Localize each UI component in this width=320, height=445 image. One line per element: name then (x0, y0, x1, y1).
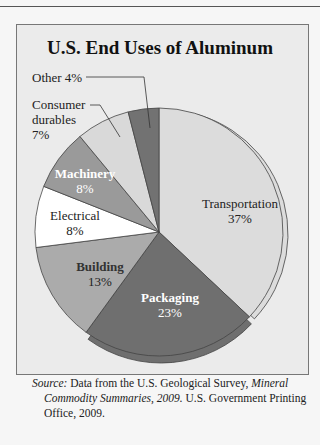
source-note: Source: Data from the U.S. Geological Su… (32, 376, 314, 421)
label-text: Packaging (130, 290, 210, 305)
label-transportation: Transportation 37% (185, 196, 295, 226)
label-pct: 8% (50, 181, 120, 196)
label-consumer-durables: Consumer durables 7% (32, 97, 102, 142)
label-electrical: Electrical 8% (42, 208, 108, 238)
label-machinery: Machinery 8% (50, 166, 120, 196)
label-packaging: Packaging 23% (130, 290, 210, 320)
label-building: Building 13% (60, 259, 140, 289)
label-text: Consumer (32, 97, 102, 112)
label-text: Machinery (50, 166, 120, 181)
source-label: Source: (32, 377, 67, 389)
label-text: Transportation (185, 196, 295, 211)
label-text: Building (60, 259, 140, 274)
label-text-2: durables (32, 112, 102, 127)
label-other: Other 4% (32, 70, 92, 85)
label-text: Electrical (42, 208, 108, 223)
label-pct: 7% (32, 127, 102, 142)
source-text: Data from the U.S. Geological Survey, (67, 377, 251, 389)
label-pct: 37% (185, 211, 295, 226)
label-pct: 13% (60, 274, 140, 289)
label-pct: 23% (130, 305, 210, 320)
label-pct: 8% (42, 223, 108, 238)
